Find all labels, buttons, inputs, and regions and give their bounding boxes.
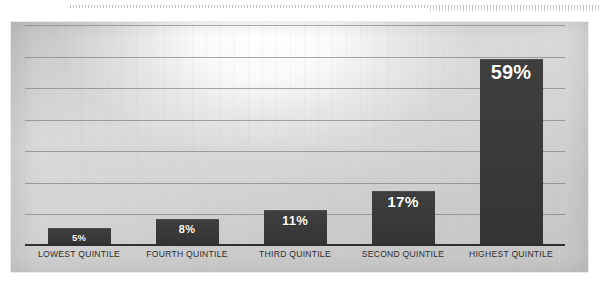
screenshot-root: 5%8%11%17%59% LOWEST QUINTILEFOURTH QUIN… [0, 0, 601, 292]
x-axis-line [25, 244, 565, 246]
bar[interactable] [480, 59, 543, 244]
plot-area: 5%8%11%17%59% [25, 25, 565, 246]
bar-value-label: 59% [480, 61, 543, 84]
x-axis-label: LOWEST QUINTILE [25, 249, 133, 259]
bar-group[interactable]: 5% [48, 25, 111, 244]
scan-artifact-line-secondary [430, 8, 601, 11]
bar-group[interactable]: 11% [264, 25, 327, 244]
bar-group[interactable]: 59% [480, 25, 543, 244]
bar-chart-panel: 5%8%11%17%59% LOWEST QUINTILEFOURTH QUIN… [11, 22, 588, 272]
bar-group[interactable]: 17% [372, 25, 435, 244]
bar-value-label: 5% [48, 232, 111, 243]
bar-group[interactable]: 8% [156, 25, 219, 244]
x-axis-category-labels: LOWEST QUINTILEFOURTH QUINTILETHIRD QUIN… [25, 249, 565, 269]
bar-value-label: 8% [156, 223, 219, 235]
x-axis-label: FOURTH QUINTILE [133, 249, 241, 259]
bar-value-label: 11% [264, 213, 327, 228]
x-axis-label: SECOND QUINTILE [349, 249, 457, 259]
x-axis-label: HIGHEST QUINTILE [457, 249, 565, 259]
x-axis-label: THIRD QUINTILE [241, 249, 349, 259]
bar-value-label: 17% [372, 193, 435, 211]
bar-series: 5%8%11%17%59% [25, 25, 565, 246]
